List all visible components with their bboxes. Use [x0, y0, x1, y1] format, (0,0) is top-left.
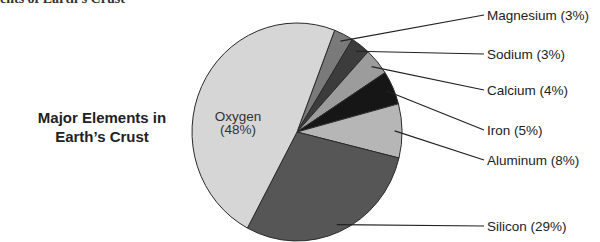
label-iron: Iron (5%) [487, 123, 543, 138]
label-calcium: Calcium (4%) [487, 83, 568, 98]
label-oxygen-pct: (48%) [220, 122, 256, 137]
label-silicon: Silicon (29%) [487, 219, 567, 234]
label-sodium: Sodium (3%) [487, 47, 565, 62]
leader-line-aluminum [395, 131, 484, 160]
label-aluminum: Aluminum (8%) [487, 153, 579, 168]
leader-line-magnesium [340, 15, 484, 41]
leader-line-silicon [337, 225, 484, 226]
leader-line-sodium [356, 51, 484, 54]
pie-chart: Magnesium (3%) Sodium (3%) Calcium (4%) … [0, 0, 600, 242]
label-magnesium: Magnesium (3%) [487, 8, 589, 23]
